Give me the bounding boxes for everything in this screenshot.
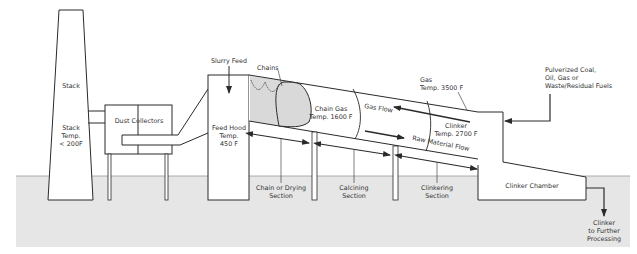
clinker-output-label-1: Clinker <box>593 219 615 227</box>
section-label-clinkering-1: Clinkering <box>421 184 453 192</box>
stack-temp-label-3: < 200F <box>59 140 83 148</box>
fuel-input-arrow <box>505 94 550 121</box>
clinker-chamber-label: Clinker Chamber <box>505 182 559 190</box>
fuel-input-label-3: Waste/Residual Fuels <box>545 82 613 90</box>
clinker-chamber: Clinker Chamber <box>478 112 586 200</box>
gas-temp-label-2: Temp. 3500 F <box>419 84 463 92</box>
stack-temp-label-2: Temp. <box>60 132 80 140</box>
clinker-output-label-3: Processing <box>587 235 621 243</box>
section-label-calcining-1: Calcining <box>339 184 368 192</box>
feed-hood-label-3: 450 F <box>220 140 238 148</box>
clinker-output-label-2: to Further <box>588 227 620 235</box>
gas-temp-label-1: Gas <box>420 76 433 84</box>
clinker-temp-label-1: Clinker <box>445 122 467 130</box>
dust-collectors-label: Dust Collectors <box>115 117 164 125</box>
fuel-input-label-1: Pulverized Coal, <box>545 66 596 74</box>
section-label-calcining-2: Section <box>342 192 366 200</box>
stack-label: Stack <box>62 82 80 90</box>
slurry-feed-label: Slurry Feed <box>211 57 247 65</box>
chain-gas-label-1: Chain Gas <box>315 105 348 113</box>
feed-hood: Feed Hood Temp. 450 F <box>208 75 249 200</box>
section-label-chain-1: Chain or Drying <box>256 184 306 192</box>
stack-temp-label-1: Stack <box>62 124 80 132</box>
kiln-support-1 <box>312 132 317 200</box>
chains-label: Chains <box>257 64 279 72</box>
chain-gas-label-2: Temp. 1600 F <box>308 113 352 121</box>
clinker-temp-label-2: Temp. 2700 F <box>433 130 477 138</box>
stack-duct <box>88 111 105 123</box>
section-label-chain-2: Section <box>269 192 293 200</box>
cement-kiln-diagram: Stack Stack Temp. < 200F Dust Collectors… <box>0 0 637 254</box>
stack: Stack Stack Temp. < 200F <box>48 10 93 200</box>
fuel-input-label-2: Oil, Gas or <box>545 74 579 82</box>
kiln-support-2 <box>393 146 398 200</box>
gas-temp-leader <box>458 92 467 110</box>
feed-hood-label-2: Temp. <box>218 132 238 140</box>
section-label-clinkering-2: Section <box>425 192 449 200</box>
feed-hood-label-1: Feed Hood <box>212 124 246 132</box>
fuel-input: Pulverized Coal, Oil, Gas or Waste/Resid… <box>505 66 613 121</box>
